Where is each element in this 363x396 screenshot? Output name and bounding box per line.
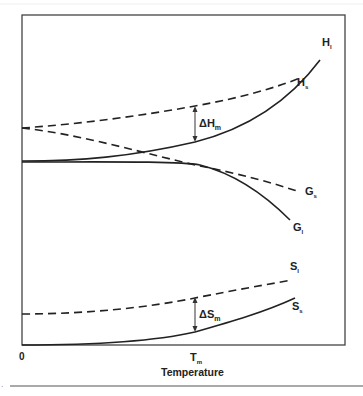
label-delta-S: ΔSm [199,308,220,322]
tick-zero: 0 [19,351,25,362]
label-delta-H: ΔHm [199,117,221,131]
curve-S-solid [22,280,292,314]
label-G-liquid: Gl [293,221,304,235]
label-H-solid: Hs [297,76,309,90]
plot-frame [22,15,345,345]
curve-G-liquid [22,162,290,220]
label-G-solid: Gs [305,185,318,199]
x-axis-label: Temperature [161,366,224,378]
label-S-liquid: Sl [290,260,299,274]
label-H-liquid: Hl [322,36,332,50]
label-S-solid: Ss [292,300,303,314]
tick-Tm: Tm [190,351,202,365]
thermo-diagram: Hl Hs Gs Gl Sl Ss ΔHm ΔSm 0 Tm Temperatu… [0,0,363,396]
footnote-marker: . [1,379,4,389]
curve-H-solid [22,78,300,128]
